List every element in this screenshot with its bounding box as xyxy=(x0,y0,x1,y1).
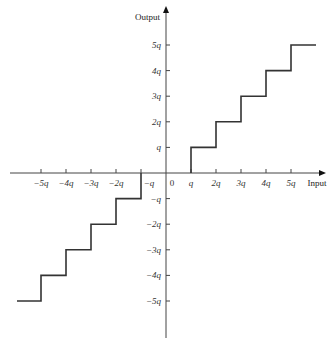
y-tick-label: −4q xyxy=(146,270,162,280)
y-tick-label: −5q xyxy=(146,296,162,306)
origin-label: 0 xyxy=(170,178,175,188)
y-axis-label: Output xyxy=(135,12,161,22)
labels: Output Input 0 xyxy=(135,12,327,188)
y-tick-label: 4q xyxy=(152,66,162,76)
x-tick-label: 4q xyxy=(262,178,272,188)
y-tick-label: −q xyxy=(150,194,161,204)
x-tick-label: 2q xyxy=(212,178,222,188)
x-axis-arrow-icon xyxy=(319,170,326,176)
x-tick-label: −5q xyxy=(33,178,49,188)
y-tick-label: −3q xyxy=(146,245,162,255)
x-tick-label: −3q xyxy=(83,178,99,188)
x-tick-label: −q xyxy=(144,178,155,188)
y-tick-label: −2q xyxy=(146,219,162,229)
x-tick-label: 3q xyxy=(236,178,247,188)
y-tick-label: 5q xyxy=(152,40,162,50)
axes xyxy=(10,6,326,338)
x-tick-label: q xyxy=(189,178,194,188)
y-tick-label: q xyxy=(157,142,162,152)
y-tick-label: 3q xyxy=(151,91,162,101)
step-line xyxy=(191,45,316,173)
step-line xyxy=(17,173,141,301)
y-tick-label: 2q xyxy=(152,117,162,127)
x-tick-label: −2q xyxy=(108,178,124,188)
x-tick-label: −4q xyxy=(58,178,74,188)
x-axis-label: Input xyxy=(308,178,327,188)
quantizer-chart: −5q−4q−3q−2q−qq2q3q4q5q5q4q3q2qq−q−2q−3q… xyxy=(0,0,334,340)
x-tick-label: 5q xyxy=(287,178,297,188)
y-axis-arrow-icon xyxy=(163,6,169,13)
